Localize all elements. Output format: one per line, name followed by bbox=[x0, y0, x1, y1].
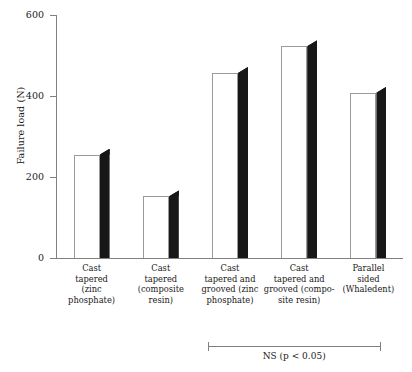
bar-side-face bbox=[307, 40, 317, 258]
x-category-label-line: Cast bbox=[53, 263, 130, 274]
failure-load-bar-chart: Failure load (N) 0200400600 Casttapered(… bbox=[0, 0, 412, 372]
x-category-label: Casttapered andgrooved (compo-site resin… bbox=[261, 263, 338, 305]
bar-front-face bbox=[281, 46, 307, 258]
x-category-label-line: site resin) bbox=[261, 295, 338, 306]
x-category-label-line: Parallel bbox=[330, 263, 407, 274]
y-tick-label: 0 bbox=[10, 252, 44, 263]
x-category-label: Casttapered(zincphosphate) bbox=[53, 263, 130, 305]
x-category-label-line: grooved (zinc bbox=[191, 284, 268, 295]
x-category-label-line: (zinc bbox=[53, 284, 130, 295]
bar bbox=[350, 87, 386, 258]
y-tick-label: 200 bbox=[10, 171, 44, 182]
bar bbox=[281, 40, 317, 258]
x-category-label-line: (Whaledent) bbox=[330, 284, 407, 295]
bar-side-face bbox=[238, 67, 248, 258]
x-category-label-line: phosphate) bbox=[53, 295, 130, 306]
y-tick-label: 400 bbox=[10, 90, 44, 101]
bar bbox=[143, 190, 179, 258]
bar-side-face bbox=[100, 149, 110, 258]
x-category-label-line: (composite bbox=[122, 284, 199, 295]
significance-bracket-cap-left bbox=[208, 342, 209, 351]
bar-front-face bbox=[74, 155, 100, 258]
x-category-label-line: phosphate) bbox=[191, 295, 268, 306]
x-category-label-line: tapered bbox=[122, 274, 199, 285]
x-category-label-line: Cast bbox=[122, 263, 199, 274]
x-category-label-line: Cast bbox=[191, 263, 268, 274]
significance-label: NS (p < 0.05) bbox=[208, 351, 380, 361]
x-category-label-line: tapered bbox=[53, 274, 130, 285]
x-category-label-line: sided bbox=[330, 274, 407, 285]
x-category-label-line: tapered and bbox=[191, 274, 268, 285]
bar bbox=[212, 67, 248, 258]
plot-area bbox=[57, 15, 403, 258]
x-category-label-line: tapered and bbox=[261, 274, 338, 285]
x-category-label: Casttapered(compositeresin) bbox=[122, 263, 199, 305]
x-category-label-line: grooved (compo- bbox=[261, 284, 338, 295]
x-axis-line bbox=[56, 258, 403, 259]
x-category-label-line: resin) bbox=[122, 295, 199, 306]
bar-front-face bbox=[143, 196, 169, 258]
x-category-label-line: Cast bbox=[261, 263, 338, 274]
significance-bracket-line bbox=[208, 346, 380, 347]
bar-front-face bbox=[212, 73, 238, 258]
bar bbox=[74, 149, 110, 258]
bar-front-face bbox=[350, 93, 376, 258]
significance-annotation: NS (p < 0.05) bbox=[0, 340, 412, 370]
x-category-label: Parallelsided(Whaledent) bbox=[330, 263, 407, 295]
y-tick-label: 600 bbox=[10, 9, 44, 20]
x-axis-category-labels: Casttapered(zincphosphate)Casttapered(co… bbox=[57, 263, 403, 325]
x-category-label: Casttapered andgrooved (zincphosphate) bbox=[191, 263, 268, 305]
bar-side-face bbox=[376, 87, 386, 258]
bar-side-face bbox=[169, 190, 179, 258]
significance-bracket-cap-right bbox=[380, 342, 381, 351]
